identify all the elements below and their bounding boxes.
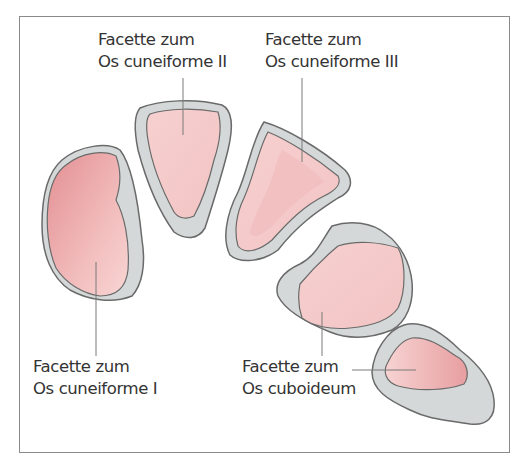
bone-middle-right	[277, 223, 412, 337]
label-line: Facette zum	[33, 356, 157, 378]
label-line: Os cuneiforme III	[265, 51, 398, 73]
label-cuneiforme-ii: Facette zum Os cuneiforme II	[98, 29, 227, 73]
label-line: Facette zum	[98, 29, 227, 51]
bone-cuneiforme-i	[42, 146, 144, 301]
label-line: Facette zum	[265, 29, 398, 51]
label-line: Os cuboideum	[242, 378, 356, 400]
label-line: Os cuneiforme I	[33, 378, 157, 400]
navicular-facets-illustration	[0, 0, 526, 471]
label-line: Facette zum	[242, 356, 356, 378]
label-cuneiforme-iii: Facette zum Os cuneiforme III	[265, 29, 398, 73]
label-line: Os cuneiforme II	[98, 51, 227, 73]
label-cuneiforme-i: Facette zum Os cuneiforme I	[33, 356, 157, 400]
bone-cuboideum	[372, 324, 494, 425]
label-cuboideum: Facette zum Os cuboideum	[242, 356, 356, 400]
